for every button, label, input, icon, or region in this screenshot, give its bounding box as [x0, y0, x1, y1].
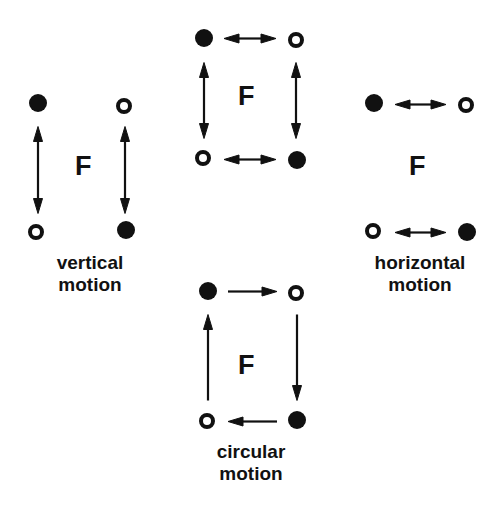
arrowhead-end — [293, 385, 302, 400]
arrow-left-upward — [192, 302, 225, 412]
arrowhead-end — [204, 314, 213, 329]
filled-circle-marker — [199, 282, 217, 300]
force-label: F — [238, 352, 255, 379]
motion-modes-diagram: Fvertical motionFFhorizontal motionFcirc… — [0, 0, 496, 509]
arrow-bottom-leftward — [216, 405, 289, 438]
arrow-shaft — [296, 314, 298, 392]
arrow-right-downward — [281, 302, 314, 412]
open-circle-marker — [288, 285, 304, 301]
panel-caption-circular-motion: circular motion — [196, 441, 306, 486]
arrowhead-end — [228, 417, 243, 426]
arrow-top-rightward — [216, 275, 289, 308]
open-circle-marker — [199, 413, 215, 429]
arrow-shaft — [207, 322, 209, 400]
arrowhead-end — [262, 287, 277, 296]
panel-circular-motion: Fcircular motion — [0, 0, 496, 509]
filled-circle-marker — [288, 411, 306, 429]
